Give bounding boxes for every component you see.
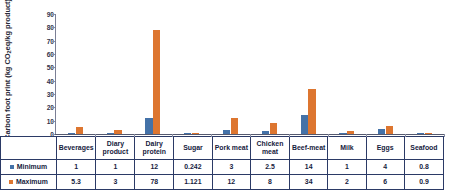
bar-minimum bbox=[378, 129, 385, 134]
table-header-line: Sugar bbox=[174, 144, 212, 152]
bar-group bbox=[289, 14, 328, 134]
legend-minimum: Minimum bbox=[1, 160, 57, 175]
table-header-line: Chicken bbox=[251, 140, 289, 148]
table-header-seafood: Seafood bbox=[404, 137, 443, 160]
table-row-maximum: Maximum 5.33781.12112834260.9 bbox=[1, 175, 444, 190]
bar-maximum bbox=[425, 133, 432, 134]
bar-minimum bbox=[145, 118, 152, 134]
table-cell-minimum-pork-meat: 3 bbox=[212, 160, 250, 175]
y-tickmark-20 bbox=[52, 107, 55, 108]
x-tickmark bbox=[211, 134, 212, 137]
table-cell-maximum-eggs: 6 bbox=[366, 175, 404, 190]
table-header-line: protein bbox=[135, 148, 173, 156]
x-tickmark bbox=[95, 134, 96, 137]
table-cell-minimum-beverages: 1 bbox=[56, 160, 96, 175]
x-tickmark bbox=[172, 134, 173, 137]
y-tickmark-10 bbox=[52, 121, 55, 122]
table-header-chicken-meat: Chickenmeat bbox=[250, 137, 289, 160]
table-cell-maximum-beef-meat: 34 bbox=[289, 175, 327, 190]
x-tickmark bbox=[444, 134, 445, 137]
table-cell-minimum-dairy-protein: 12 bbox=[135, 160, 174, 175]
x-tickmark bbox=[134, 134, 135, 137]
table-corner-cell bbox=[1, 137, 57, 160]
bar-minimum bbox=[107, 133, 114, 134]
table-cell-minimum-eggs: 4 bbox=[366, 160, 404, 175]
table-header-diary-product: Diaryproduct bbox=[96, 137, 135, 160]
x-tickmark bbox=[405, 134, 406, 137]
bar-maximum bbox=[76, 127, 83, 134]
bar-maximum bbox=[270, 123, 277, 134]
bar-group bbox=[328, 14, 367, 134]
table-cell-minimum-beef-meat: 14 bbox=[289, 160, 327, 175]
data-table: BeveragesDiaryproductDairyproteinSugarPo… bbox=[0, 136, 444, 190]
carbon-footprint-figure: Carbon foot print (kg CO2eq/kg product) … bbox=[0, 0, 461, 193]
x-tickmark bbox=[289, 134, 290, 137]
bar-group bbox=[366, 14, 405, 134]
legend-maximum: Maximum bbox=[1, 175, 57, 190]
table-header-sugar: Sugar bbox=[174, 137, 213, 160]
bar-minimum bbox=[339, 133, 346, 134]
table-cell-minimum-seafood: 0.8 bbox=[404, 160, 443, 175]
table-cell-maximum-diary-product: 3 bbox=[96, 175, 135, 190]
bar-maximum bbox=[386, 126, 393, 134]
table-cell-maximum-seafood: 0.9 bbox=[404, 175, 443, 190]
y-axis-title-container: Carbon foot print (kg CO2eq/kg product) bbox=[0, 14, 16, 140]
table-header-line: Seafood bbox=[405, 144, 443, 152]
table-cell-maximum-beverages: 5.3 bbox=[56, 175, 96, 190]
table-header-line: Milk bbox=[328, 144, 365, 152]
y-axis-title: Carbon foot print (kg CO2eq/kg product) bbox=[0, 14, 16, 140]
bar-group bbox=[134, 14, 173, 134]
table-cell-minimum-diary-product: 1 bbox=[96, 160, 135, 175]
table-cell-maximum-pork-meat: 12 bbox=[212, 175, 250, 190]
bar-maximum bbox=[308, 89, 315, 134]
x-tickmark bbox=[328, 134, 329, 137]
bar-group bbox=[95, 14, 134, 134]
y-axis-tick-labels: 0102030405060708090 bbox=[38, 10, 54, 138]
bar-minimum bbox=[223, 130, 230, 134]
table-header-line: Pork meat bbox=[213, 144, 250, 152]
table-row-minimum: Minimum 11120.24232.514140.8 bbox=[1, 160, 444, 175]
bar-maximum bbox=[192, 133, 199, 134]
x-tickmark bbox=[250, 134, 251, 137]
plot-area bbox=[56, 14, 444, 134]
bar-group bbox=[405, 14, 444, 134]
bar-minimum bbox=[417, 133, 424, 134]
table-cell-minimum-milk: 1 bbox=[328, 160, 366, 175]
table-header-line: Beverages bbox=[57, 144, 96, 152]
table-header-line: Beef-meat bbox=[290, 144, 327, 152]
bar-maximum bbox=[347, 131, 354, 134]
bar-maximum bbox=[153, 30, 160, 134]
table-cell-maximum-dairy-protein: 78 bbox=[135, 175, 174, 190]
y-tickmark-70 bbox=[52, 41, 55, 42]
table-cell-maximum-chicken-meat: 8 bbox=[250, 175, 289, 190]
y-tickmark-30 bbox=[52, 94, 55, 95]
table-header-beverages: Beverages bbox=[56, 137, 96, 160]
legend-label-minimum: Minimum bbox=[17, 163, 47, 170]
bar-minimum bbox=[262, 131, 269, 134]
table-cell-minimum-sugar: 0.242 bbox=[174, 160, 213, 175]
table-header-line: meat bbox=[251, 148, 289, 156]
x-tickmark bbox=[366, 134, 367, 137]
legend-label-maximum: Maximum bbox=[16, 178, 48, 185]
table-header-line: Diary bbox=[96, 140, 134, 148]
bar-maximum bbox=[231, 118, 238, 134]
table-cell-maximum-sugar: 1.121 bbox=[174, 175, 213, 190]
table-header-line: Eggs bbox=[367, 144, 404, 152]
y-tickmark-40 bbox=[52, 81, 55, 82]
y-tickmark-60 bbox=[52, 54, 55, 55]
bar-minimum bbox=[68, 133, 75, 134]
y-tickmark-50 bbox=[52, 67, 55, 68]
legend-swatch-minimum-icon bbox=[10, 165, 14, 169]
y-tickmark-80 bbox=[52, 27, 55, 28]
y-tickmark-0 bbox=[52, 134, 55, 135]
bar-group bbox=[56, 14, 95, 134]
table-header-milk: Milk bbox=[328, 137, 366, 160]
bar-minimum bbox=[184, 133, 191, 134]
bar-group bbox=[250, 14, 289, 134]
table-cell-minimum-chicken-meat: 2.5 bbox=[250, 160, 289, 175]
bar-group bbox=[172, 14, 211, 134]
table-header-pork-meat: Pork meat bbox=[212, 137, 250, 160]
table-header-beef-meat: Beef-meat bbox=[289, 137, 327, 160]
table-cell-maximum-milk: 2 bbox=[328, 175, 366, 190]
y-tickmark-90 bbox=[52, 14, 55, 15]
